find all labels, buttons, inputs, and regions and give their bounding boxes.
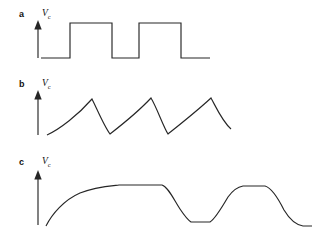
panel-c-axis-label-sub: c (48, 161, 51, 168)
panel-c-letter: c (19, 157, 24, 167)
panel-b-axis-label: Vc (42, 78, 51, 90)
panel-b-axis-label-sub: c (48, 83, 51, 90)
panel-b-letter: b (19, 79, 25, 89)
panel-a-axis-arrow (34, 20, 41, 58)
waveform-figure: a Vc b Vc c Vc (0, 0, 322, 237)
panel-a: a Vc (19, 8, 210, 58)
panel-b-waveform-sawtooth (47, 98, 231, 135)
panel-c-waveform-rounded-square (46, 185, 312, 226)
panel-c: c Vc (19, 156, 312, 226)
panel-b-axis-arrow (34, 90, 41, 135)
panel-b: b Vc (19, 78, 231, 135)
panel-a-axis-label: Vc (42, 8, 51, 20)
panel-a-axis-label-sub: c (48, 13, 51, 20)
panel-a-letter: a (19, 9, 25, 19)
panel-c-axis-arrow (34, 170, 41, 225)
panel-c-axis-arrowhead (34, 170, 41, 180)
panel-b-axis-arrowhead (34, 90, 41, 100)
panel-c-axis-label: Vc (42, 156, 51, 168)
panel-a-axis-arrowhead (34, 20, 41, 30)
panel-a-waveform-square (41, 23, 210, 58)
